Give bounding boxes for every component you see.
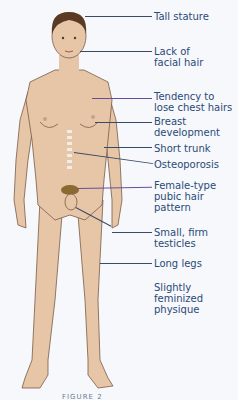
label-chest-hairs: Tendency to lose chest hairs [154, 91, 232, 113]
label-facial-hair: Lack of facial hair [154, 46, 203, 68]
label-testicles: Small, firm testicles [154, 227, 208, 249]
label-long-legs: Long legs [154, 258, 202, 269]
label-tall-stature: Tall stature [154, 11, 209, 22]
figure-caption: FIGURE 2 [62, 393, 103, 400]
label-short-trunk: Short trunk [154, 143, 211, 154]
leader-chest-hairs [92, 98, 152, 99]
leader-breast [95, 122, 152, 123]
leader-short-trunk [104, 147, 152, 148]
label-osteoporosis: Osteoporosis [154, 159, 219, 170]
label-pubic-hair: Female-type pubic hair pattern [154, 180, 216, 213]
label-breast: Breast development [154, 116, 220, 138]
leader-tall-stature [85, 16, 152, 17]
leader-testicles-h [112, 232, 152, 233]
body-outline-icon [0, 0, 140, 400]
label-physique: Slightly feminized physique [154, 282, 203, 315]
leader-long-legs [100, 263, 152, 264]
human-figure-illustration [0, 0, 140, 400]
leader-facial-hair [80, 51, 152, 52]
